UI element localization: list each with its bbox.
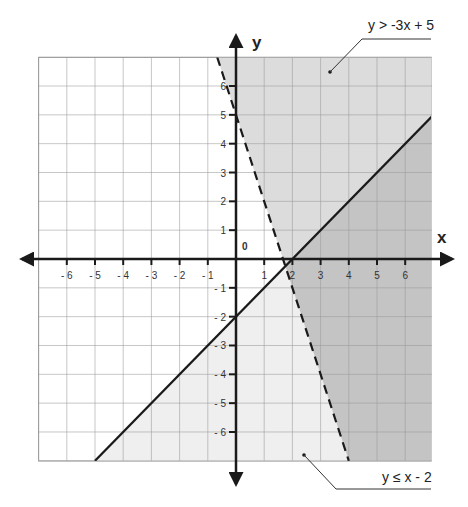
inequality-graph: - 6- 5- 4- 3- 2- 1123456654321- 1- 2- 3-… bbox=[0, 0, 468, 507]
y-tick-label: - 5 bbox=[214, 398, 226, 409]
label-y-le-x-minus2: y ≤ x - 2 bbox=[382, 469, 432, 485]
y-tick-label: 5 bbox=[220, 110, 226, 121]
y-tick-label: - 6 bbox=[214, 427, 226, 438]
x-tick-label: 4 bbox=[346, 270, 352, 281]
y-tick-label: - 3 bbox=[214, 340, 226, 351]
y-tick-label: 2 bbox=[220, 196, 226, 207]
label-y-gt-neg3x-plus5: y > -3x + 5 bbox=[368, 17, 434, 33]
x-tick-label: 5 bbox=[374, 270, 380, 281]
y-tick-label: 6 bbox=[220, 81, 226, 92]
x-tick-label: 1 bbox=[261, 270, 267, 281]
y-tick-label: 3 bbox=[220, 168, 226, 179]
x-tick-label: - 1 bbox=[202, 270, 214, 281]
y-axis-label: y bbox=[252, 33, 262, 52]
y-tick-label: - 1 bbox=[214, 283, 226, 294]
origin-label: 0 bbox=[242, 241, 248, 252]
x-tick-label: - 5 bbox=[89, 270, 101, 281]
x-tick-label: - 6 bbox=[61, 270, 73, 281]
x-tick-label: 3 bbox=[318, 270, 324, 281]
x-tick-label: 6 bbox=[402, 270, 408, 281]
y-tick-label: 1 bbox=[220, 225, 226, 236]
y-tick-label: - 2 bbox=[214, 312, 226, 323]
x-tick-label: - 3 bbox=[146, 270, 158, 281]
x-axis-label: x bbox=[437, 228, 447, 247]
x-tick-label: - 4 bbox=[117, 270, 129, 281]
y-tick-label: 4 bbox=[220, 139, 226, 150]
x-tick-label: - 2 bbox=[174, 270, 186, 281]
x-tick-label: 2 bbox=[290, 270, 296, 281]
y-tick-label: - 4 bbox=[214, 369, 226, 380]
